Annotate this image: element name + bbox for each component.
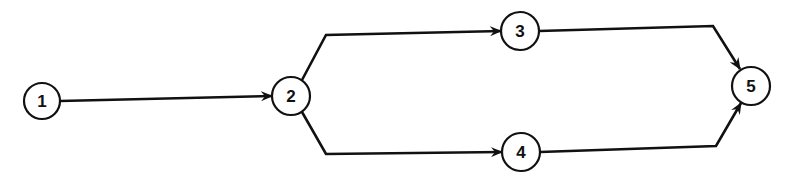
node-1: 1	[24, 83, 60, 119]
node-4: 4	[502, 133, 540, 171]
node-1-label: 1	[37, 92, 46, 111]
edge-3-to-5	[539, 26, 740, 69]
node-4-label: 4	[516, 143, 526, 162]
node-3: 3	[501, 12, 539, 50]
node-5: 5	[732, 67, 770, 105]
diagram-svg: 1 2 3 4 5	[0, 0, 793, 178]
edge-2-to-3	[302, 31, 501, 80]
network-diagram: 1 2 3 4 5	[0, 0, 793, 178]
node-2-label: 2	[286, 87, 295, 106]
node-2: 2	[272, 77, 310, 115]
node-5-label: 5	[746, 77, 755, 96]
node-3-label: 3	[515, 22, 524, 41]
edge-2-to-4	[302, 112, 502, 154]
edges-layer	[60, 26, 741, 154]
edge-4-to-5	[540, 103, 741, 152]
edge-1-to-2	[60, 96, 272, 101]
